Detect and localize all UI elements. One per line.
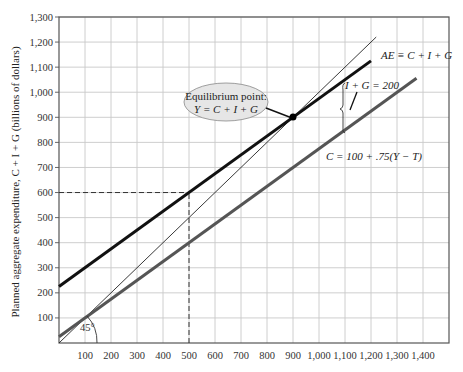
equilibrium-label-line2: Y = C + I + G <box>194 103 258 115</box>
y-tick-label: 100 <box>37 312 53 323</box>
y-tick-label: 300 <box>37 262 53 273</box>
y-tick-label: 400 <box>37 237 53 248</box>
x-tick-label: 1,200 <box>359 350 383 361</box>
x-tick-label: 200 <box>103 350 119 361</box>
x-tick-label: 600 <box>207 350 223 361</box>
equilibrium-label-line1: Equilibrium point: <box>185 90 267 102</box>
y-axis-ticks: 1002003004005006007008009001,0001,1001,2… <box>29 12 59 324</box>
y-tick-label: 900 <box>37 112 53 123</box>
x-tick-label: 700 <box>233 350 249 361</box>
ig-pointer <box>350 92 357 110</box>
x-tick-label: 900 <box>285 350 301 361</box>
y-axis-label: Planned aggregate expenditure, C + I + G… <box>9 46 22 317</box>
y-tick-label: 500 <box>37 212 53 223</box>
y-tick-label: 800 <box>37 137 53 148</box>
y-tick-label: 600 <box>37 187 53 198</box>
ae-line-label: AE ≡ C + I + G <box>380 49 452 61</box>
y-tick-label: 1,000 <box>29 87 53 98</box>
aggregate-expenditure-chart: 1002003004005006007008009001,0001,1001,2… <box>0 0 463 372</box>
x-tick-label: 800 <box>259 350 275 361</box>
x-tick-label: 1,000 <box>307 350 331 361</box>
y-tick-label: 1,300 <box>29 12 53 23</box>
y-tick-label: 1,200 <box>29 37 53 48</box>
angle-label: 45° <box>80 322 95 333</box>
x-axis-ticks: 1002003004005006007008009001,0001,1001,2… <box>77 350 435 361</box>
y-tick-label: 200 <box>37 287 53 298</box>
x-tick-label: 400 <box>155 350 171 361</box>
x-tick-label: 1,300 <box>385 350 409 361</box>
consumption-line-label: C = 100 + .75(Y − T) <box>326 150 422 163</box>
x-tick-label: 100 <box>77 350 93 361</box>
x-tick-label: 1,100 <box>333 350 357 361</box>
equilibrium-callout-bubble <box>184 83 268 121</box>
x-tick-label: 500 <box>181 350 197 361</box>
equilibrium-point-marker <box>290 114 297 121</box>
y-tick-label: 1,100 <box>29 62 53 73</box>
equilibrium-callout-pointer <box>266 108 292 118</box>
x-tick-label: 1,400 <box>411 350 435 361</box>
x-tick-label: 300 <box>129 350 145 361</box>
y-tick-label: 700 <box>37 162 53 173</box>
ig-label: I + G = 200 <box>344 79 399 91</box>
